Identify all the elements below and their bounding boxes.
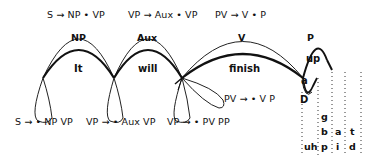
phoneme-b: b bbox=[321, 127, 328, 137]
bottom-rule-vp-aux: VP → • Aux VP bbox=[86, 117, 156, 127]
phoneme-p: p bbox=[321, 142, 328, 152]
word-will: will bbox=[138, 64, 158, 74]
word-d: D bbox=[300, 95, 308, 105]
phoneme-t: t bbox=[350, 127, 355, 137]
category-v: V bbox=[238, 33, 245, 43]
category-aux: Aux bbox=[137, 33, 157, 43]
top-rule-pv: PV → V • P bbox=[215, 10, 266, 20]
top-rule-vp: VP → Aux • VP bbox=[128, 10, 198, 20]
parse-chart-diagram: S → NP • VP VP → Aux • VP PV → V • P NP … bbox=[0, 0, 380, 159]
word-it: It bbox=[74, 64, 83, 74]
bottom-rule-s: S → • NP VP bbox=[15, 117, 73, 127]
bottom-rule-vp-pv: VP → • PV PP bbox=[167, 117, 230, 127]
up-arc-tail bbox=[327, 60, 332, 70]
category-p: P bbox=[307, 33, 314, 43]
side-rule-pv: PV → • V P bbox=[224, 94, 275, 104]
word-a: a bbox=[301, 76, 308, 86]
phoneme-g: g bbox=[321, 112, 328, 122]
word-up: up bbox=[306, 54, 320, 64]
phoneme-a: a bbox=[335, 127, 341, 137]
phoneme-d: d bbox=[349, 142, 356, 152]
category-np: NP bbox=[71, 33, 86, 43]
word-finish: finish bbox=[229, 64, 260, 74]
phoneme-uh: uh bbox=[304, 142, 318, 152]
phoneme-i: i bbox=[336, 142, 339, 152]
top-rule-s: S → NP • VP bbox=[47, 10, 105, 20]
